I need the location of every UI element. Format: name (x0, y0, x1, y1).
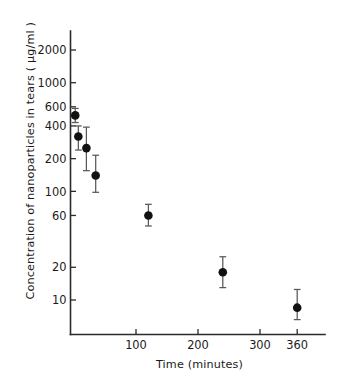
x-axis-title: Time (minutes) (96, 358, 243, 371)
data-point (74, 126, 83, 150)
axes-group (71, 31, 326, 335)
data-marker (74, 132, 83, 141)
data-marker (219, 268, 228, 277)
x-axis-title-container: Time (minutes) (0, 358, 339, 371)
data-points-group (71, 108, 302, 319)
y-tick-label: 200 (45, 152, 67, 166)
y-tick-label: 400 (45, 119, 67, 133)
data-point (91, 155, 100, 192)
x-tick-label: 300 (249, 338, 271, 352)
y-tick-label: 1000 (38, 76, 67, 90)
x-tick-label: 360 (286, 338, 308, 352)
data-marker (82, 144, 91, 153)
x-tick-label: 100 (125, 338, 147, 352)
data-point (144, 204, 153, 226)
data-point (293, 289, 302, 319)
y-tick-label: 20 (52, 260, 67, 274)
y-tick-label: 60 (52, 209, 67, 223)
y-tick-label: 2000 (38, 43, 67, 57)
data-marker (293, 303, 302, 312)
data-point (82, 127, 91, 171)
y-tick-label: 600 (45, 100, 67, 114)
data-point (71, 108, 80, 122)
data-marker (91, 171, 100, 180)
x-tick-label: 200 (187, 338, 209, 352)
data-point (219, 257, 228, 288)
tick-labels-group: 10206010020040060010002000100200300360 (38, 43, 309, 352)
data-marker (144, 211, 153, 220)
y-tick-label: 100 (45, 185, 67, 199)
y-tick-label: 10 (52, 293, 67, 307)
ticks-group (71, 50, 298, 335)
chart-figure: Concentration of nanoparticles in tears … (0, 0, 339, 392)
scatter-plot-canvas: 10206010020040060010002000100200300360 (0, 0, 339, 392)
data-marker (71, 111, 80, 120)
